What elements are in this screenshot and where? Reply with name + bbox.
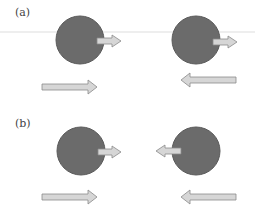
panel-a bbox=[42, 16, 237, 94]
arrow-left-icon bbox=[181, 73, 236, 87]
figure-canvas bbox=[0, 0, 255, 214]
arrow-left-icon bbox=[181, 190, 236, 204]
panel-b bbox=[42, 127, 236, 204]
panel-label-a: (a) bbox=[15, 6, 30, 19]
panel-label-b: (b) bbox=[15, 117, 31, 130]
arrow-right-icon bbox=[42, 190, 97, 204]
arrow-right-icon bbox=[42, 80, 97, 94]
